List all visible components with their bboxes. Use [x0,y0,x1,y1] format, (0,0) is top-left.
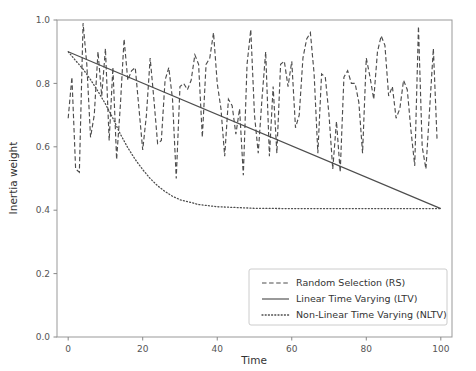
x-tick-label: 20 [137,344,149,354]
inertia-weight-line-chart: 020406080100 0.00.20.40.60.81.0 Time Ine… [0,0,476,371]
legend-label-0: Random Selection (RS) [296,277,405,288]
y-tick-label: 0.6 [36,142,51,152]
legend-label-1: Linear Time Varying (LTV) [296,293,417,304]
y-tick-label: 0.8 [36,79,51,89]
y-tick-label: 0.4 [36,205,51,215]
y-axis-title: Inertia weight [7,142,19,215]
x-tick-label: 40 [212,344,224,354]
y-tick-label: 0.0 [36,332,51,342]
y-tick-label: 1.0 [36,15,51,25]
legend-label-2: Non-Linear Time Varying (NLTV) [296,309,447,320]
chart-figure: 020406080100 0.00.20.40.60.81.0 Time Ine… [0,0,476,371]
chart-legend[interactable]: Random Selection (RS)Linear Time Varying… [249,269,447,325]
y-tick-label: 0.2 [36,269,50,279]
x-tick-label: 60 [286,344,298,354]
x-tick-label: 0 [65,344,71,354]
x-tick-label: 100 [432,344,449,354]
x-axis-title: Time [240,354,267,366]
x-tick-label: 80 [361,344,373,354]
